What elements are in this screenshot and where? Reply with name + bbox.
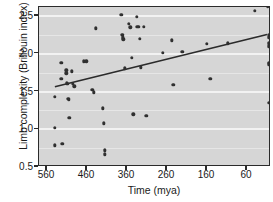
y-tick-label: 1.5 [3,85,33,96]
plot-area [38,6,270,166]
y-axis-title: Limb complexity (Brillouin index) [17,0,31,161]
x-tick-mark [165,166,166,170]
data-point [267,35,270,38]
x-tick-label: 460 [66,169,106,180]
y-tick-label: 1.0 [3,123,33,134]
x-tick-label: 160 [186,169,226,180]
x-tick-mark [125,166,126,170]
x-tick-label: 60 [226,169,266,180]
x-tick-label: 360 [106,169,146,180]
x-tick-mark [205,166,206,170]
y-tick-label: 2.0 [3,47,33,58]
x-tick-mark [45,166,46,170]
y-tick-label: 2.5 [3,10,33,21]
scatter-chart-figure: Limb complexity (Brillouin index) 0.51.0… [0,0,273,202]
x-tick-mark [245,166,246,170]
data-point [267,45,270,48]
x-tick-label: 560 [26,169,66,180]
x-tick-mark [85,166,86,170]
data-point [267,63,270,66]
data-point [267,101,270,104]
x-tick-label: 260 [146,169,186,180]
x-axis-title: Time (mya) [38,184,270,196]
